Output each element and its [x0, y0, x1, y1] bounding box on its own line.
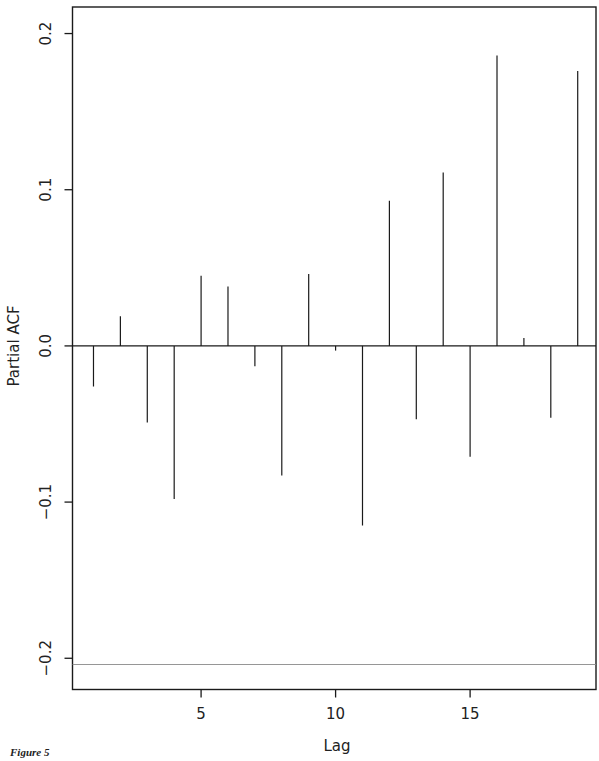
plot-border [73, 7, 597, 690]
plot-frame [73, 7, 597, 690]
figure-caption: Figure 5 [10, 746, 49, 758]
reference-lines [73, 346, 597, 665]
y-axis: −0.2−0.10.00.10.2 [38, 22, 73, 677]
y-tick-label: −0.2 [38, 640, 56, 676]
pacf-stems [93, 55, 577, 525]
pacf-chart: −0.2−0.10.00.10.2 51015 Partial ACF Lag [0, 0, 599, 761]
x-axis-label: Lag [323, 737, 350, 755]
y-tick-label: 0.1 [38, 178, 56, 202]
x-tick-label: 15 [461, 705, 480, 723]
x-axis: 51015 [196, 690, 479, 723]
y-tick-label: 0.0 [38, 334, 56, 358]
y-tick-label: 0.2 [38, 22, 56, 46]
y-tick-label: −0.1 [38, 484, 56, 520]
y-axis-label: Partial ACF [5, 305, 23, 386]
x-tick-label: 10 [326, 705, 345, 723]
x-tick-label: 5 [196, 705, 206, 723]
